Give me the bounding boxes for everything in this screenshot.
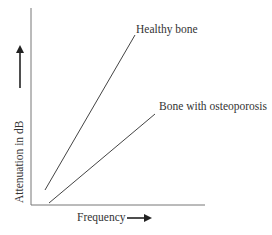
- osteoporosis-label: Bone with osteoporosis: [159, 100, 267, 113]
- diagram: Healthy bone Bone with osteoporosis Freq…: [0, 0, 272, 235]
- healthy-bone-label: Healthy bone: [136, 23, 198, 36]
- healthy-bone-line: [45, 35, 135, 190]
- y-axis-label: Attenuation in dB: [13, 120, 25, 203]
- x-axis-label: Frequency: [77, 211, 126, 224]
- osteoporosis-line: [49, 114, 155, 203]
